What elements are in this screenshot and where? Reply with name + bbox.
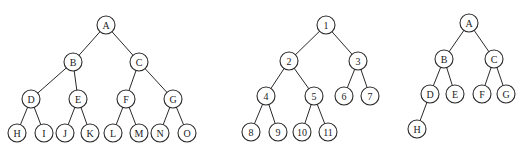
node-label: 8	[249, 127, 254, 138]
node-label: D	[27, 94, 34, 105]
node-label: 5	[312, 91, 317, 102]
node-label: H	[413, 124, 420, 135]
node-label: 9	[276, 127, 281, 138]
node-label: E	[452, 89, 458, 100]
tree-node-f: F	[117, 90, 135, 108]
tree-node-j: J	[56, 124, 74, 142]
tree-node-h: H	[408, 120, 426, 138]
tree-node-d: D	[421, 85, 439, 103]
tree-node-n: N	[151, 124, 169, 142]
node-label: O	[183, 128, 190, 139]
node-label: F	[123, 94, 129, 105]
tree-node-m: M	[130, 124, 148, 142]
node-label: C	[136, 57, 143, 68]
tree-node-c: C	[130, 53, 148, 71]
node-label: N	[156, 128, 163, 139]
node-label: J	[63, 128, 67, 139]
tree-node-a: A	[460, 14, 478, 32]
node-label: 7	[368, 91, 373, 102]
tree-node-l: L	[104, 124, 122, 142]
node-label: 1	[324, 20, 329, 31]
tree-node-a: A	[97, 16, 115, 34]
node-label: C	[491, 54, 498, 65]
tree-node-1: 1	[317, 16, 335, 34]
tree-node-3: 3	[349, 52, 367, 70]
full-binary-tree: ABCDEFGHIJKLMNO	[8, 16, 196, 142]
binary-trees-diagram: ABCDEFGHIJKLMNO1234567891011ABCDEFGH	[0, 0, 525, 159]
node-label: L	[110, 128, 116, 139]
tree-node-b: B	[435, 50, 453, 68]
node-label: 3	[356, 56, 361, 67]
nodes-layer: ABCDEFGHIJKLMNO1234567891011ABCDEFGH	[8, 14, 515, 142]
tree-node-d: D	[22, 90, 40, 108]
full-binary-tree-edges	[17, 25, 187, 133]
node-label: B	[441, 54, 448, 65]
node-label: B	[70, 57, 77, 68]
node-label: M	[135, 128, 144, 139]
node-label: 11	[323, 127, 333, 138]
node-label: K	[86, 128, 94, 139]
node-label: G	[502, 89, 509, 100]
tree-node-o: O	[178, 124, 196, 142]
node-label: 4	[264, 91, 269, 102]
tree-node-b: B	[64, 53, 82, 71]
node-label: D	[426, 89, 433, 100]
tree-node-h: H	[8, 124, 26, 142]
complete-binary-tree-letters-edges	[417, 23, 506, 129]
complete-binary-tree: 1234567891011	[242, 16, 379, 141]
complete-binary-tree-edges	[251, 25, 370, 132]
tree-node-4: 4	[257, 87, 275, 105]
tree-node-2: 2	[280, 52, 298, 70]
edges-layer	[17, 23, 506, 133]
tree-node-10: 10	[293, 123, 311, 141]
node-label: A	[102, 20, 110, 31]
node-label: 2	[287, 56, 292, 67]
tree-node-g: G	[497, 85, 515, 103]
node-label: I	[42, 128, 45, 139]
tree-node-g: G	[164, 90, 182, 108]
node-label: G	[169, 94, 176, 105]
node-label: 10	[297, 127, 307, 138]
node-label: A	[465, 18, 473, 29]
node-label: H	[13, 128, 20, 139]
tree-node-6: 6	[335, 87, 353, 105]
tree-node-f: F	[473, 85, 491, 103]
tree-node-e: E	[69, 90, 87, 108]
node-label: E	[75, 94, 81, 105]
node-label: 6	[342, 91, 347, 102]
tree-node-c: C	[485, 50, 503, 68]
tree-node-7: 7	[361, 87, 379, 105]
tree-node-9: 9	[269, 123, 287, 141]
tree-node-8: 8	[242, 123, 260, 141]
node-label: F	[479, 89, 485, 100]
tree-node-k: K	[81, 124, 99, 142]
tree-node-11: 11	[319, 123, 337, 141]
complete-binary-tree-letters: ABCDEFGH	[408, 14, 515, 138]
tree-node-e: E	[446, 85, 464, 103]
tree-node-i: I	[35, 124, 53, 142]
tree-node-5: 5	[305, 87, 323, 105]
